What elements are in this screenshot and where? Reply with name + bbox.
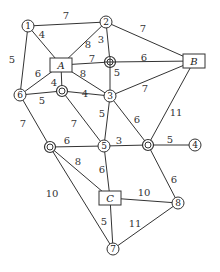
edge-weight-label: 7 — [71, 118, 77, 129]
edge-1-2 — [28, 22, 106, 26]
edge-weight-label: 7 — [142, 83, 148, 94]
edge-weight-label: 5 — [167, 134, 173, 145]
edge-weights-layer: 7458377656485477756116358661010511 — [9, 10, 183, 229]
double-circle-node-icon — [45, 142, 56, 153]
node-5: 5 — [98, 140, 110, 152]
edge-B-S — [148, 61, 194, 145]
edge-weight-label: 4 — [82, 88, 88, 99]
edge-weight-label: 6 — [64, 135, 70, 146]
node-7: 7 — [107, 243, 119, 255]
node-label: 3 — [107, 91, 113, 101]
edge-weight-label: 6 — [171, 174, 177, 185]
node-S — [143, 140, 154, 151]
edge-weight-label: 5 — [99, 108, 105, 119]
node-label: 2 — [103, 17, 109, 27]
edge-weight-label: 4 — [39, 29, 45, 40]
edge-weight-label: 10 — [138, 187, 151, 198]
edge-weight-label: 7 — [140, 23, 146, 34]
node-label: 5 — [101, 141, 107, 151]
nodes-layer: 12AB6354C87 — [14, 16, 205, 255]
edge-3-B — [110, 61, 194, 96]
edge-weight-label: 5 — [9, 54, 15, 65]
double-circle-node-icon — [57, 86, 68, 97]
edge-weight-label: 6 — [141, 52, 147, 63]
node-label: 4 — [192, 140, 198, 150]
edge-weight-label: 5 — [39, 95, 45, 106]
edge-weight-label: 6 — [99, 164, 105, 175]
node-label: 8 — [175, 198, 181, 208]
edge-weight-label: 5 — [101, 216, 107, 227]
node-A: A — [50, 58, 72, 72]
node-R — [45, 142, 56, 153]
edge-weight-label: 7 — [20, 118, 26, 129]
node-1: 1 — [22, 20, 34, 32]
edge-weight-label: 8 — [75, 156, 81, 167]
node-C: C — [99, 191, 121, 205]
edge-3-5 — [104, 96, 110, 146]
node-label: 6 — [17, 90, 23, 100]
node-label: 7 — [110, 244, 116, 254]
edge-weight-label: 6 — [35, 68, 41, 79]
node-3: 3 — [104, 90, 116, 102]
node-P — [105, 57, 116, 68]
edge-C-7 — [110, 198, 113, 249]
network-graph: 7458377656485477756116358661010511 12AB6… — [0, 0, 220, 272]
node-label: C — [106, 193, 114, 204]
edge-weight-label: 3 — [98, 34, 104, 45]
edge-2-B — [106, 22, 194, 61]
edge-weight-label: 5 — [114, 67, 120, 78]
edge-weight-label: 3 — [116, 135, 122, 146]
node-2: 2 — [100, 16, 112, 28]
double-circle-node-icon — [143, 140, 154, 151]
node-8: 8 — [172, 197, 184, 209]
edge-P-B — [110, 61, 194, 62]
node-6: 6 — [14, 89, 26, 101]
edge-weight-label: 4 — [51, 77, 57, 88]
edge-1-6 — [20, 26, 28, 95]
node-label: 1 — [25, 21, 31, 31]
edge-weight-label: 8 — [85, 39, 91, 50]
node-label: A — [56, 60, 64, 71]
edge-R-5 — [50, 146, 104, 147]
node-B: B — [183, 54, 205, 68]
edge-weight-label: 10 — [46, 188, 59, 199]
edge-weight-label: 7 — [89, 53, 95, 64]
edge-weight-label: 7 — [63, 10, 69, 21]
edge-weight-label: 11 — [129, 218, 142, 229]
edge-weight-label: 8 — [80, 68, 86, 79]
edge-weight-label: 6 — [134, 114, 140, 125]
edge-weight-label: 11 — [170, 107, 183, 118]
edge-8-7 — [113, 203, 178, 249]
node-4: 4 — [189, 139, 201, 151]
edge-5-S — [104, 145, 148, 146]
node-Q — [57, 86, 68, 97]
node-label: B — [189, 56, 197, 67]
